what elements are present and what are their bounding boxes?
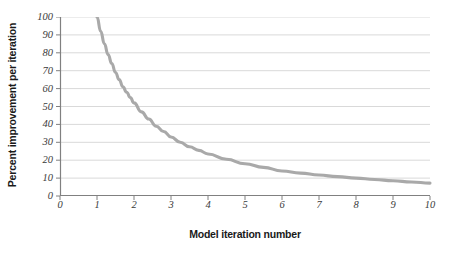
x-axis-title: Model iteration number — [60, 228, 430, 240]
plot-area — [54, 17, 436, 203]
chart-figure: Percent improvement per iteration 010203… — [0, 0, 455, 256]
data-series-line — [97, 17, 430, 183]
axis-tick-marks — [56, 17, 430, 200]
plot-svg — [54, 17, 436, 203]
gridlines — [60, 17, 430, 178]
